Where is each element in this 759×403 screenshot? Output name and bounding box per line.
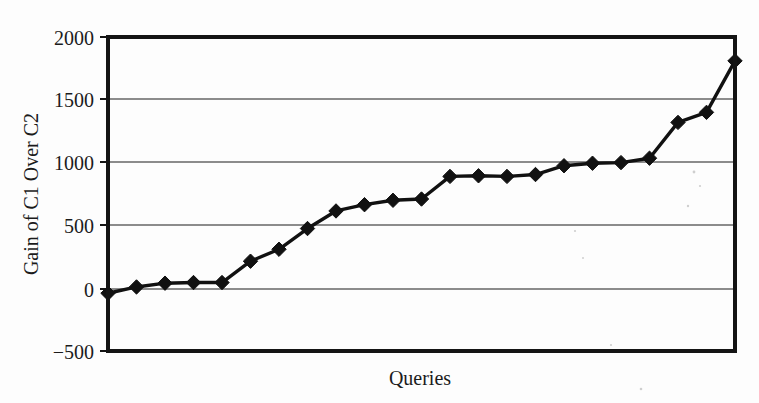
ytick-label-0: 0 [84, 279, 94, 301]
ytick-label-2000: 2000 [54, 27, 94, 49]
ytick-label-1000: 1000 [54, 152, 94, 174]
line-chart: 2000 1500 1000 500 0 −500 Queries Gain o… [0, 0, 759, 403]
y-axis-title: Gain of C1 Over C2 [20, 113, 42, 275]
chart-figure: 2000 1500 1000 500 0 −500 Queries Gain o… [0, 0, 759, 403]
ytick-label-1500: 1500 [54, 89, 94, 111]
ytick-label-minus500: −500 [53, 341, 94, 363]
x-axis-title: Queries [389, 367, 451, 389]
ytick-label-500: 500 [64, 215, 94, 237]
